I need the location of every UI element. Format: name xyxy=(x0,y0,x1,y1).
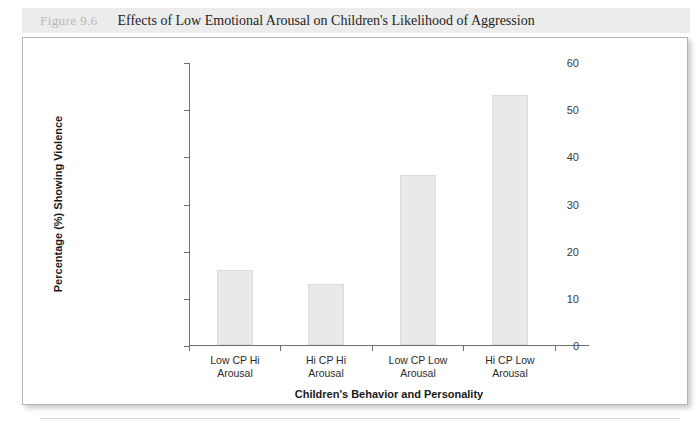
y-tick-label-40: 40 xyxy=(567,151,579,163)
x-tick-2 xyxy=(372,346,373,351)
y-tick-label-0: 0 xyxy=(573,340,579,352)
bar-chart-plot-area: 60 50 40 30 20 10 0 Low CP Hi Arousal Hi… xyxy=(189,63,589,346)
y-tick-label-10: 10 xyxy=(567,293,579,305)
y-tick-label-30: 30 xyxy=(567,199,579,211)
bar-hi-cp-hi-arousal xyxy=(308,284,344,345)
y-tick-50 xyxy=(184,110,189,111)
figure-number: Figure 9.6 xyxy=(40,13,98,29)
x-tick-0 xyxy=(189,346,190,351)
x-label-line-2: Arousal xyxy=(455,367,565,380)
y-axis-title: Percentage (%) Showing Violence xyxy=(52,116,64,292)
y-tick-10 xyxy=(184,299,189,300)
figure-frame: 60 50 40 30 20 10 0 Low CP Hi Arousal Hi… xyxy=(22,37,688,405)
x-axis-line xyxy=(189,345,589,346)
x-label-line-1: Hi CP Low xyxy=(455,354,565,367)
y-tick-label-60: 60 xyxy=(567,57,579,69)
page-divider-rule xyxy=(40,418,680,419)
bar-low-cp-hi-arousal xyxy=(217,270,253,345)
x-label-hi-cp-low-arousal: Hi CP Low Arousal xyxy=(455,354,565,380)
x-tick-3 xyxy=(463,346,464,351)
x-axis-title: Children's Behavior and Personality xyxy=(189,388,589,400)
bar-hi-cp-low-arousal xyxy=(492,95,528,345)
bar-low-cp-low-arousal xyxy=(400,175,436,345)
figure-title: Effects of Low Emotional Arousal on Chil… xyxy=(118,13,535,29)
y-tick-60 xyxy=(184,63,189,64)
y-tick-40 xyxy=(184,157,189,158)
x-tick-4 xyxy=(555,346,556,351)
y-tick-30 xyxy=(184,205,189,206)
y-axis-line xyxy=(189,63,190,346)
y-tick-label-50: 50 xyxy=(567,104,579,116)
figure-caption-band: Figure 9.6 Effects of Low Emotional Arou… xyxy=(22,8,690,33)
y-tick-label-20: 20 xyxy=(567,246,579,258)
x-tick-1 xyxy=(280,346,281,351)
y-tick-20 xyxy=(184,252,189,253)
